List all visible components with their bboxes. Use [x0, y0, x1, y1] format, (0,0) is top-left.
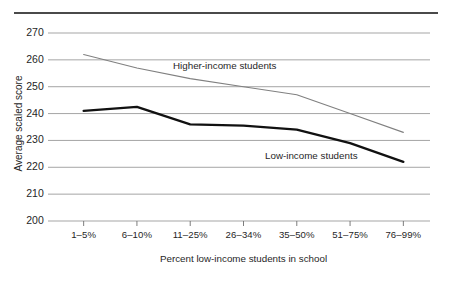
y-tick-label-230: 230 [4, 133, 44, 145]
y-tick-label-210: 210 [4, 187, 44, 199]
y-tick-label-240: 240 [4, 107, 44, 119]
y-tick-label-250: 250 [4, 80, 44, 92]
y-tick-label-220: 220 [4, 160, 44, 172]
y-tick-label-200: 200 [4, 214, 44, 226]
y-tick-label-270: 270 [4, 26, 44, 38]
x-tick-label-6: 76–99% [371, 229, 435, 240]
chart-figure: Average scaled score Percent low-income … [0, 0, 449, 281]
series-line-higher-income [84, 54, 404, 132]
y-tick-label-260: 260 [4, 53, 44, 65]
